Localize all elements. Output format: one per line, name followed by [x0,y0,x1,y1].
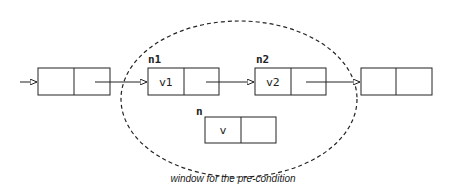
node-label-n2: n2 [256,53,269,66]
node-n2: n2 v2 [255,53,326,95]
linked-list-diagram: n1 v1 n2 v2 n v window for the pre-condi… [0,0,453,192]
precondition-window-ellipse [121,21,357,177]
node-n1: n1 v1 [148,53,219,95]
node-label-n: n [196,105,203,118]
node-value-n1: v1 [159,76,173,89]
node-label-n1: n1 [148,53,162,66]
node-next [361,68,432,95]
diagram-caption: window for the pre-condition [170,173,296,184]
node-value-n: v [220,124,227,137]
node-value-n2: v2 [266,76,280,89]
node-n: n v [196,105,276,143]
